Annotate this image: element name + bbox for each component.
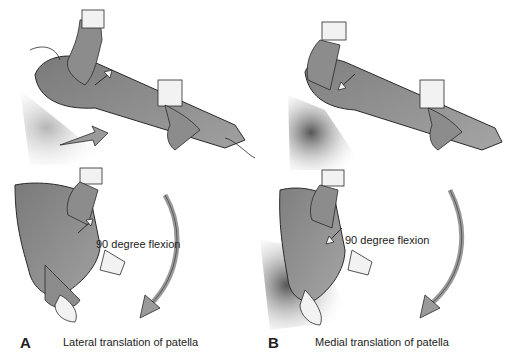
flexion-label-b: 90 degree flexion [345, 234, 429, 246]
lateral-translation-illustration [0, 0, 260, 360]
extended-leg-b [288, 22, 502, 170]
panel-letter-b: B [268, 334, 279, 351]
medial-translation-illustration [260, 0, 519, 360]
extended-leg-a [20, 10, 255, 165]
flexed-leg-b [260, 170, 462, 330]
panel-medial-translation: 90 degree flexion B Medial translation o… [260, 0, 519, 360]
flexion-label-a: 90 degree flexion [96, 238, 180, 250]
panel-caption-a: Lateral translation of patella [63, 336, 198, 348]
panel-caption-b: Medial translation of patella [315, 336, 449, 348]
panel-lateral-translation: 90 degree flexion A Lateral translation … [0, 0, 260, 360]
panel-letter-a: A [20, 334, 31, 351]
